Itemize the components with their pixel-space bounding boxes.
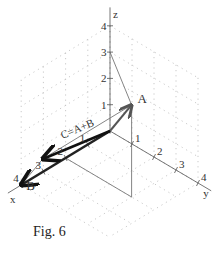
grid-line <box>109 183 198 237</box>
x-tick-label: 4 <box>13 172 19 184</box>
y-tick <box>197 180 200 186</box>
parallelogram-edge-a-c <box>43 105 132 159</box>
x-axis-name: x <box>10 193 16 205</box>
z-tick-label: 2 <box>101 72 107 84</box>
figure-caption: Fig. 6 <box>33 224 66 240</box>
vector-a <box>110 105 132 131</box>
y-tick-label: 3 <box>179 158 185 170</box>
x-tick-label: 2 <box>58 145 64 157</box>
y-axis <box>110 131 211 191</box>
z-tick-label: 1 <box>101 99 107 111</box>
a-floor-projection <box>66 158 132 197</box>
x-tick-label: 3 <box>35 159 41 171</box>
vectors <box>21 105 131 185</box>
y-axis-name: y <box>203 187 209 199</box>
z-tick-label: 3 <box>101 46 107 58</box>
grid-line <box>43 172 131 224</box>
vector-a-label: A <box>138 91 148 106</box>
z-tick-label: 4 <box>101 20 107 32</box>
y-tick-label: 1 <box>135 132 141 144</box>
vector-diagram: 123412341234xyzABC=A+B <box>0 0 224 253</box>
vector-b-label: B <box>26 178 35 193</box>
y-tick <box>175 167 178 173</box>
z-axis-name: z <box>113 8 118 20</box>
y-tick-label: 4 <box>201 171 207 183</box>
y-tick <box>153 154 156 160</box>
vector-c-label: C=A+B <box>59 116 96 141</box>
y-tick-label: 2 <box>157 145 163 157</box>
labels: 123412341234xyzABC=A+B <box>10 8 209 205</box>
a-to-z-axis-line <box>110 52 132 105</box>
